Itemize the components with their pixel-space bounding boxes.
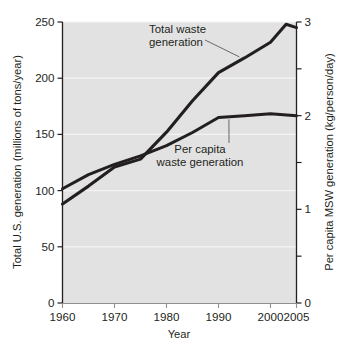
y-axis-title: Total U.S. generation (millions of tons/… (11, 55, 23, 269)
x-axis-tick-label: 2005 (284, 310, 310, 323)
x-axis-tick-label: 1970 (102, 310, 128, 323)
line-chart: 050100150200250 0123 1960197019801990200… (0, 0, 348, 350)
per-capita-annotation-line1: Per capita (174, 143, 226, 155)
left-axis-tick-label: 50 (42, 240, 55, 253)
right-axis-tick-label: 3 (305, 15, 311, 28)
x-axis-tick-label: 1980 (154, 310, 180, 323)
left-axis-tick-label: 100 (35, 184, 54, 197)
total-waste-annotation-line1: Total waste (149, 23, 206, 35)
left-axis-tick-label: 250 (35, 15, 54, 28)
chart-figure: 050100150200250 0123 1960197019801990200… (0, 0, 348, 350)
total-waste-annotation-line2: generation (149, 36, 203, 48)
right-axis-tick-label: 0 (305, 296, 311, 309)
x-axis-tick-label: 1960 (50, 310, 76, 323)
per-capita-annotation-line2: waste generation (156, 156, 244, 168)
left-axis-tick-label: 150 (35, 127, 54, 140)
left-axis-tick-label: 200 (35, 71, 54, 84)
right-axis-tick-label: 2 (305, 109, 311, 122)
x-axis-title: Year (168, 328, 191, 340)
left-axis-tick-label: 0 (48, 296, 54, 309)
y2-axis-title: Per capita MSW generation (kg/person/day… (323, 53, 335, 271)
right-axis-tick-label: 1 (305, 202, 311, 215)
x-axis-tick-label: 1990 (206, 310, 232, 323)
x-axis-tick-label: 2000 (258, 310, 284, 323)
